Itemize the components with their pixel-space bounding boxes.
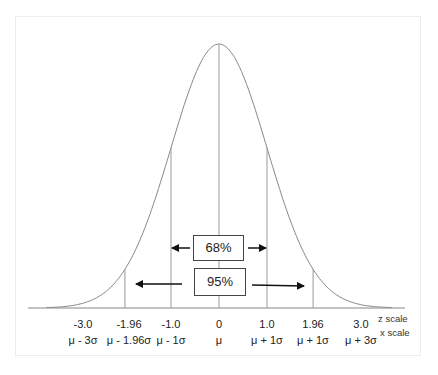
- arrow-95-right: [252, 285, 304, 286]
- x-scale-label: x scale: [380, 327, 410, 339]
- percent-68-box: 68%: [193, 235, 244, 261]
- z-scale-label: z scale: [378, 313, 408, 325]
- percent-95-box: 95%: [194, 268, 246, 296]
- percent-95-label: 95%: [207, 274, 233, 289]
- percent-68-label: 68%: [205, 240, 231, 255]
